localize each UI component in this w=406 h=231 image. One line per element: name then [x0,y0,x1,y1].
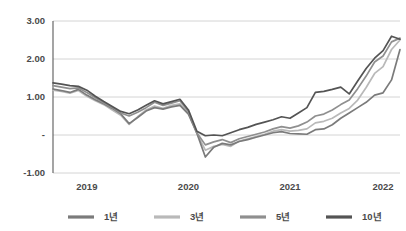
y-tick-label: - [42,129,45,140]
y-tick-label: 2.00 [27,53,46,64]
legend-label-1년: 1년 [104,211,118,222]
yield-curve-chart: 3.002.001.00--1.00 2019202020212022 1년3년… [0,0,406,231]
y-tick-label: 3.00 [27,15,46,26]
x-tick-label: 2022 [373,181,394,192]
legend-label-10년: 10년 [362,211,382,222]
legend-label-5년: 5년 [276,211,290,222]
legend-label-3년: 3년 [190,211,204,222]
chart-canvas: 3.002.001.00--1.00 2019202020212022 1년3년… [0,0,406,231]
x-tick-label: 2020 [178,181,199,192]
y-tick-label: -1.00 [23,167,45,178]
y-tick-label: 1.00 [27,91,46,102]
x-tick-label: 2021 [279,181,301,192]
x-tick-label: 2019 [76,181,97,192]
